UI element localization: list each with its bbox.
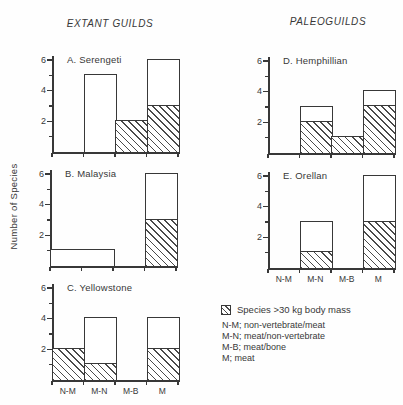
y-tick-label: 6 [34, 55, 46, 66]
chart-orellan: E. Orellan 246N-MM-NM-BM [268, 176, 394, 268]
bar [300, 106, 333, 154]
bar [84, 317, 117, 380]
x-category-label: N-M [50, 386, 86, 396]
x-tick [330, 154, 332, 158]
y-major-tick [47, 59, 52, 61]
x-category-label: M [361, 274, 397, 284]
legend: Species >30 kg body mass N-M; non-verteb… [221, 304, 351, 364]
bar [363, 90, 396, 153]
x-tick [114, 153, 116, 157]
y-major-tick [45, 235, 50, 237]
chart-serengeti: A. Serengeti 246 [52, 60, 178, 152]
x-tick [267, 269, 269, 273]
x-axis-line [52, 380, 180, 382]
y-tick-label: 2 [250, 232, 262, 243]
y-major-tick [47, 90, 52, 92]
x-tick [83, 381, 85, 385]
bar-hatch [116, 121, 147, 152]
panel-label: A. Serengeti [67, 54, 122, 65]
x-category-label: M-B [329, 274, 365, 284]
chart-yellowstone: C. Yellowstone 246N-MM-NM-BM [52, 288, 178, 380]
x-tick [51, 153, 53, 157]
y-minor-tick [49, 105, 53, 107]
panel-label: C. Yellowstone [67, 282, 132, 293]
legend-abbrev-item: M; meat [222, 353, 351, 364]
x-axis-line [268, 268, 396, 270]
bar [52, 348, 85, 380]
bar-hatch [148, 105, 179, 153]
y-axis-line [52, 56, 54, 154]
x-category-label: M [145, 386, 181, 396]
y-minor-tick [265, 252, 269, 254]
panel-label: E. Orellan [283, 170, 327, 181]
bar [145, 173, 178, 267]
x-tick [49, 267, 51, 271]
x-category-label: M-N [298, 274, 334, 284]
x-tick [175, 267, 177, 271]
y-major-tick [47, 287, 52, 289]
y-tick-label: 6 [32, 169, 44, 180]
y-major-tick [47, 121, 52, 123]
y-tick-label: 2 [250, 117, 262, 128]
bar-hatch [364, 105, 395, 153]
legend-abbrev-item: M-N; meat/non-vertebrate [222, 331, 351, 342]
y-major-tick [263, 175, 268, 177]
x-tick [177, 153, 179, 157]
y-major-tick [263, 91, 268, 93]
bar-hatch [53, 349, 84, 380]
chart-hemphillian: D. Hemphillian 246 [268, 61, 394, 153]
bar [84, 74, 117, 152]
bar [147, 59, 180, 153]
y-major-tick [263, 60, 268, 62]
figure-trophic-diversity: EXTANT GUILDS PALEOGUILDS Number of Spec… [0, 0, 403, 405]
legend-abbrev-item: N-M; non-vertebrate/meat [222, 320, 351, 331]
y-minor-tick [47, 189, 51, 191]
x-category-label: M-N [82, 386, 118, 396]
legend-row: Species >30 kg body mass [221, 304, 351, 315]
bar-hatch [364, 221, 395, 269]
y-tick-label: 4 [34, 313, 46, 324]
paleoguilds-title: PALEOGUILDS [253, 16, 403, 27]
x-tick [393, 154, 395, 158]
bar [147, 317, 180, 380]
bar-hatch [332, 137, 363, 153]
y-tick-label: 6 [34, 283, 46, 294]
y-tick-label: 4 [34, 85, 46, 96]
y-tick-label: 6 [250, 56, 262, 67]
x-tick [362, 269, 364, 273]
x-tick [299, 154, 301, 158]
y-axis-title: Number of Species [8, 147, 21, 267]
y-minor-tick [49, 136, 53, 138]
y-minor-tick [265, 137, 269, 139]
x-tick [299, 269, 301, 273]
bar [50, 249, 115, 266]
y-minor-tick [265, 221, 269, 223]
legend-abbrev-item: M-B; meat/bone [222, 342, 351, 353]
extant-guilds-title: EXTANT GUILDS [35, 18, 185, 29]
x-tick [267, 154, 269, 158]
x-tick [146, 153, 148, 157]
x-category-label: N-M [266, 274, 302, 284]
y-minor-tick [265, 106, 269, 108]
bar-hatch [301, 121, 332, 153]
y-minor-tick [265, 191, 269, 193]
bar [300, 221, 333, 269]
bar [363, 175, 396, 269]
legend-label: Species >30 kg body mass [237, 304, 351, 315]
y-major-tick [263, 206, 268, 208]
y-major-tick [45, 204, 50, 206]
y-major-tick [47, 318, 52, 320]
x-category-label: M-B [113, 386, 149, 396]
legend-abbreviations: N-M; non-vertebrate/meat M-N; meat/non-v… [221, 320, 351, 364]
x-tick [362, 154, 364, 158]
x-tick [51, 381, 53, 385]
x-tick [144, 267, 146, 271]
x-tick [112, 267, 114, 271]
y-axis-line [268, 172, 270, 270]
x-tick [146, 381, 148, 385]
hatch-swatch-icon [221, 305, 231, 315]
panel-label: B. Malaysia [65, 168, 116, 179]
x-tick [393, 269, 395, 273]
y-major-tick [263, 122, 268, 124]
bar [115, 120, 148, 152]
